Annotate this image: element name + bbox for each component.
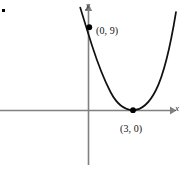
vertex-dot — [130, 107, 136, 113]
parabola-figure: y x (0, 9) (3, 0) — [0, 0, 186, 169]
y-intercept-dot — [86, 24, 92, 30]
y-intercept-label: (0, 9) — [96, 26, 118, 36]
plot-canvas — [0, 0, 186, 169]
parabola-curve — [80, 8, 176, 111]
y-axis-label: y — [86, 1, 90, 10]
x-axis-label: x — [175, 104, 179, 113]
vertex-label: (3, 0) — [120, 124, 142, 134]
